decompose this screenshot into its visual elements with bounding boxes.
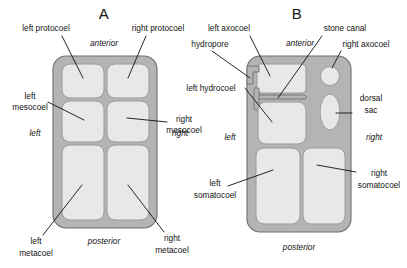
diagram-canvas: A anterior posterior left right [0,0,407,268]
panel-b-left-label: left [224,132,236,142]
chamber-left-metacoel [62,145,104,220]
callout-left-mesocoel-line2: mesocoel [12,102,48,112]
chamber-right-mesocoel [107,101,149,142]
callout-left-protocoel: left protocoel [22,23,70,33]
callout-right-protocoel: right protocoel [132,23,185,33]
chamber-left-somatocoel [256,148,300,224]
chamber-right-protocoel [107,64,149,98]
callout-left-somatocoel-line2: somatocoel [194,190,237,200]
callout-left-mesocoel-line1: left [24,91,36,101]
chamber-left-protocoel [62,64,104,98]
callout-right-metacoel-line2: metacoel [155,245,189,255]
panel-b-letter: B [292,5,302,22]
callout-right-mesocoel-line1: right [176,114,193,124]
callout-left-metacoel-line2: metacoel [19,248,53,258]
panel-b-posterior-label: posterior [282,242,317,252]
callout-left-axocoel: left axocoel [208,23,250,33]
callout-dorsal-sac-line1: dorsal [360,93,383,103]
callout-left-hydrocoel: left hydrocoel [186,83,236,93]
figure-root: A anterior posterior left right [0,0,407,268]
chamber-right-metacoel [107,145,149,220]
structure-stone-canal [258,95,306,99]
chamber-right-somatocoel [303,148,345,224]
callout-stone-canal: stone canal [324,23,367,33]
panel-a-letter: A [99,5,109,22]
callout-hydropore: hydropore [191,39,229,49]
callout-right-somatocoel-line2: somatocoel [358,180,401,190]
callout-left-metacoel-line1: left [30,236,42,246]
panel-b-anterior-label: anterior [286,38,315,48]
callout-right-mesocoel-line2: mesocoel [166,125,202,135]
chamber-left-mesocoel [62,101,104,142]
callout-dorsal-sac-line2: sac [365,105,378,115]
chamber-dorsal-sac [320,94,340,130]
panel-a-anterior-label: anterior [90,38,119,48]
callout-left-somatocoel-line1: left [209,178,221,188]
callout-right-somatocoel-line1: right [371,168,388,178]
callout-right-axocoel: right axocoel [342,39,389,49]
panel-a-left-label: left [29,128,41,138]
callout-right-metacoel-line1: right [164,233,181,243]
panel-a-posterior-label: posterior [87,236,122,246]
panel-b-right-label: right [366,132,383,142]
chamber-right-axocoel [321,67,340,86]
chamber-left-hydrocoel [258,102,306,144]
